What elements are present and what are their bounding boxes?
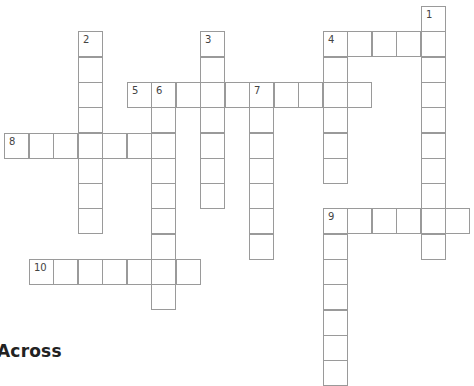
crossword-cell[interactable] <box>78 158 103 184</box>
crossword-cell[interactable] <box>53 133 78 159</box>
crossword-cell[interactable] <box>200 82 225 108</box>
crossword-cell[interactable] <box>421 31 446 57</box>
crossword-cell[interactable] <box>372 31 397 57</box>
crossword-cell[interactable]: 4 <box>323 31 348 57</box>
clue-number: 8 <box>9 137 15 147</box>
crossword-cell[interactable] <box>298 82 323 108</box>
crossword-cell[interactable] <box>78 57 103 83</box>
crossword-cell[interactable] <box>151 183 176 209</box>
crossword-cell[interactable] <box>200 183 225 209</box>
crossword-cell[interactable] <box>421 133 446 159</box>
crossword-cell[interactable] <box>396 208 421 234</box>
clue-number: 2 <box>83 35 89 45</box>
crossword-cell[interactable]: 5 <box>127 82 152 108</box>
crossword-cell[interactable] <box>347 82 372 108</box>
crossword-cell[interactable] <box>323 259 348 285</box>
crossword-cell[interactable] <box>127 259 152 285</box>
clue-number: 9 <box>328 212 334 222</box>
crossword-cell[interactable]: 2 <box>78 31 103 57</box>
crossword-cell[interactable] <box>151 284 176 310</box>
crossword-cell[interactable] <box>176 82 201 108</box>
crossword-cell[interactable] <box>249 107 274 133</box>
crossword-cell[interactable] <box>274 82 299 108</box>
crossword-cell[interactable]: 8 <box>4 133 29 159</box>
crossword-cell[interactable] <box>249 133 274 159</box>
crossword-cell[interactable] <box>323 360 348 386</box>
crossword-cell[interactable]: 10 <box>29 259 54 285</box>
crossword-cell[interactable]: 3 <box>200 31 225 57</box>
crossword-cell[interactable] <box>200 133 225 159</box>
crossword-cell[interactable] <box>249 208 274 234</box>
crossword-cell[interactable] <box>78 259 103 285</box>
crossword-cell[interactable] <box>151 234 176 260</box>
clue-number: 10 <box>34 263 47 273</box>
crossword-cell[interactable]: 7 <box>249 82 274 108</box>
crossword-cell[interactable] <box>421 107 446 133</box>
crossword-cell[interactable] <box>151 107 176 133</box>
crossword-cell[interactable] <box>347 31 372 57</box>
clue-number: 5 <box>132 86 138 96</box>
clue-number: 1 <box>426 10 432 20</box>
crossword-cell[interactable] <box>323 310 348 336</box>
crossword-cell[interactable] <box>78 133 103 159</box>
crossword-cell[interactable] <box>323 284 348 310</box>
crossword-cell[interactable] <box>323 234 348 260</box>
crossword-cell[interactable] <box>102 133 127 159</box>
crossword-cell[interactable] <box>200 158 225 184</box>
crossword-cell[interactable] <box>200 107 225 133</box>
crossword-cell[interactable]: 6 <box>151 82 176 108</box>
crossword-cell[interactable] <box>323 82 348 108</box>
crossword-cell[interactable] <box>29 133 54 159</box>
crossword-cell[interactable] <box>323 57 348 83</box>
crossword-cell[interactable] <box>323 158 348 184</box>
across-heading: Across <box>0 341 62 361</box>
crossword-cell[interactable] <box>78 82 103 108</box>
crossword-cell[interactable] <box>78 107 103 133</box>
crossword-cell[interactable] <box>127 133 152 159</box>
crossword-cell[interactable] <box>421 82 446 108</box>
crossword-cell[interactable]: 9 <box>323 208 348 234</box>
crossword-cell[interactable] <box>102 259 127 285</box>
clue-number: 4 <box>328 35 334 45</box>
crossword-cell[interactable] <box>249 158 274 184</box>
crossword-cell[interactable] <box>323 133 348 159</box>
crossword-cell[interactable] <box>421 234 446 260</box>
clue-number: 3 <box>205 35 211 45</box>
crossword-cell[interactable] <box>323 107 348 133</box>
crossword-cell[interactable] <box>421 183 446 209</box>
crossword-cell[interactable] <box>347 208 372 234</box>
clue-number: 7 <box>254 86 260 96</box>
crossword-cell[interactable] <box>323 335 348 361</box>
crossword-cell[interactable] <box>78 208 103 234</box>
crossword-cell[interactable] <box>176 259 201 285</box>
crossword-cell[interactable] <box>421 208 446 234</box>
crossword-cell[interactable] <box>151 259 176 285</box>
crossword-cell[interactable] <box>372 208 397 234</box>
crossword-cell[interactable] <box>421 57 446 83</box>
crossword-cell[interactable] <box>151 133 176 159</box>
crossword-cell[interactable] <box>445 208 470 234</box>
clue-number: 6 <box>156 86 162 96</box>
crossword-cell[interactable] <box>249 183 274 209</box>
crossword-cell[interactable]: 1 <box>421 6 446 32</box>
crossword-cell[interactable] <box>396 31 421 57</box>
crossword-cell[interactable] <box>200 57 225 83</box>
crossword-cell[interactable] <box>151 208 176 234</box>
crossword-cell[interactable] <box>53 259 78 285</box>
crossword-cell[interactable] <box>151 158 176 184</box>
crossword-cell[interactable] <box>225 82 250 108</box>
crossword-cell[interactable] <box>421 158 446 184</box>
crossword-cell[interactable] <box>249 234 274 260</box>
crossword-cell[interactable] <box>78 183 103 209</box>
